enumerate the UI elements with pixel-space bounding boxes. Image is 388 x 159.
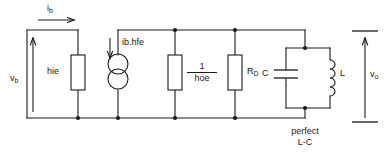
label-rd: RD — [247, 67, 259, 77]
resistor-hoe-body — [168, 55, 182, 90]
resistor-hie-body — [71, 55, 85, 90]
junction-dot-top-rd — [233, 28, 237, 32]
circuit-diagram: ib vb hie ib.hfe 1 hoe RD C L vo perfect… — [0, 0, 388, 159]
junction-dot-bottom-hoe — [173, 116, 177, 120]
label-inductor: L — [340, 69, 345, 78]
label-capacitor: C — [262, 69, 269, 78]
inductor-arc-2 — [330, 69, 335, 78]
junction-dot-tank-top — [303, 46, 307, 50]
label-hie: hie — [47, 67, 59, 76]
current-source-symbol — [108, 54, 128, 89]
label-vo: vo — [370, 70, 378, 80]
capacitor-plates — [274, 70, 298, 78]
inductor-coil — [330, 60, 335, 96]
label-perfect-lc: perfect L-C — [273, 126, 337, 149]
label-ib-hfe: ib.hfe — [122, 38, 144, 47]
current-source-circle-lower — [108, 69, 128, 89]
junction-dot-bottom-source — [116, 116, 120, 120]
current-source-circle-upper — [108, 54, 128, 74]
label-ib: ib — [47, 4, 53, 14]
junction-dot-top-hoe — [173, 28, 177, 32]
junction-dot-bottom-hie — [76, 116, 80, 120]
inductor-arc-1 — [330, 60, 335, 69]
label-one-over-hoe: 1 hoe — [187, 62, 217, 84]
inductor-arc-3 — [330, 78, 335, 87]
inductor-arc-4 — [330, 87, 335, 96]
junction-dot-tank-bottom — [303, 106, 307, 110]
resistor-rd-body — [228, 55, 242, 90]
junction-dot-bottom-rd — [233, 116, 237, 120]
label-vb: vb — [10, 74, 18, 84]
